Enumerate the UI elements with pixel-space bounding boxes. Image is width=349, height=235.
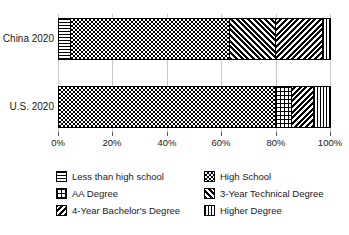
legend-label: High School xyxy=(220,171,271,182)
legend-item-higher-degree: Higher Degree xyxy=(204,205,282,216)
legend-item-less-than-high-school: Less than high school xyxy=(56,171,204,182)
bar-segment-china-high-school xyxy=(71,19,230,59)
x-axis-tick-label-100: 100% xyxy=(318,137,342,148)
legend-item-high-school: High School xyxy=(204,171,271,182)
bar-segment-china-less-than-high-school xyxy=(59,19,71,59)
chart-legend: Less than high school High School AA Deg… xyxy=(56,168,346,219)
y-axis-label-china-text: China 2020 xyxy=(3,33,54,44)
bar-segment-china-3-year-technical-degree xyxy=(230,19,276,59)
bar-segment-us-higher-degree xyxy=(314,87,330,127)
x-tick-mark-100 xyxy=(330,132,331,136)
x-axis-tick-label-40: 40% xyxy=(157,137,176,148)
x-axis-tick-label-20: 20% xyxy=(102,137,121,148)
x-axis-tick-label-0: 0% xyxy=(51,137,65,148)
stacked-bar-chart: China 2020 U.S. 2020 xyxy=(0,0,349,235)
legend-swatch-vertical-lines-icon xyxy=(204,205,215,216)
x-axis-tick-label-60: 60% xyxy=(211,137,230,148)
legend-swatch-horizontal-lines-icon xyxy=(56,171,67,182)
bar-segment-us-4-year-bachelors-degree xyxy=(292,87,314,127)
legend-swatch-checkerboard-icon xyxy=(204,171,215,182)
bar-segment-us-aa-degree xyxy=(276,87,292,127)
legend-item-3-year-technical-degree: 3-Year Technical Degree xyxy=(204,188,324,199)
legend-item-aa-degree: AA Degree xyxy=(56,188,204,199)
y-axis-label-us-text: U.S. 2020 xyxy=(10,101,54,112)
x-axis-tick-label-80: 80% xyxy=(266,137,285,148)
legend-swatch-grid-icon xyxy=(56,188,67,199)
stacked-bar-us xyxy=(58,86,331,128)
y-axis-label-china: China 2020 xyxy=(0,33,54,44)
bar-row-china xyxy=(58,18,331,60)
legend-swatch-forward-diagonal-icon xyxy=(204,188,215,199)
stacked-bar-china xyxy=(58,18,331,60)
bar-segment-china-higher-degree xyxy=(323,19,330,59)
legend-label: 3-Year Technical Degree xyxy=(220,188,324,199)
bar-segment-china-4-year-bachelors-degree xyxy=(276,19,323,59)
legend-row: 4-Year Bachelor's Degree Higher Degree xyxy=(56,202,346,219)
legend-label: AA Degree xyxy=(72,188,118,199)
x-tick-mark-80 xyxy=(276,132,277,136)
y-axis-label-us: U.S. 2020 xyxy=(0,101,54,112)
legend-label: 4-Year Bachelor's Degree xyxy=(72,205,180,216)
plot-area xyxy=(58,14,331,132)
legend-row: Less than high school High School xyxy=(56,168,346,185)
bar-segment-us-high-school xyxy=(59,87,276,127)
bar-row-us xyxy=(58,86,331,128)
legend-row: AA Degree 3-Year Technical Degree xyxy=(56,185,346,202)
legend-label: Higher Degree xyxy=(220,205,282,216)
legend-label: Less than high school xyxy=(72,171,164,182)
x-tick-mark-0 xyxy=(58,132,59,136)
x-tick-mark-40 xyxy=(167,132,168,136)
x-tick-mark-60 xyxy=(221,132,222,136)
legend-item-4-year-bachelors-degree: 4-Year Bachelor's Degree xyxy=(56,205,204,216)
legend-swatch-back-diagonal-icon xyxy=(56,205,67,216)
x-tick-mark-20 xyxy=(112,132,113,136)
